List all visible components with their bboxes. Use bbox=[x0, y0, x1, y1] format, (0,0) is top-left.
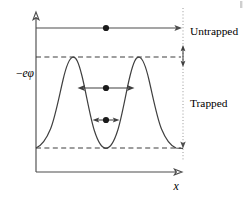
y-axis-label: −eφ bbox=[16, 67, 34, 80]
x-axis-label: x bbox=[173, 179, 178, 193]
corner-edge-mark bbox=[240, 1, 242, 8]
trapped-level-upper bbox=[78, 85, 135, 91]
untrapped-particle-dot bbox=[103, 25, 109, 31]
trapped-region-label: Trapped bbox=[190, 97, 228, 109]
x-axis-label-wrap: x bbox=[166, 176, 186, 194]
y-axis-label-wrap: −eφ bbox=[2, 63, 34, 81]
vertical-axis-arrowhead bbox=[33, 12, 39, 20]
potential-well-figure: Untrapped Trapped −eφ x bbox=[0, 0, 246, 198]
untrapped-region-label: Untrapped bbox=[190, 25, 238, 37]
potential-energy-curve bbox=[36, 57, 183, 148]
horizontal-axis-arrowhead bbox=[174, 169, 182, 175]
trapped-region-label-wrap: Trapped bbox=[190, 93, 228, 111]
untrapped-energy-level bbox=[36, 25, 182, 31]
untrapped-band-indicator bbox=[181, 45, 186, 67]
untrapped-region-label-wrap: Untrapped bbox=[190, 21, 238, 39]
y-axis-label-potential: φ bbox=[28, 67, 34, 80]
trapped-upper-particle-dot bbox=[103, 85, 109, 91]
trapped-lower-particle-dot bbox=[103, 117, 109, 123]
axes-group bbox=[33, 12, 182, 175]
trapped-level-lower bbox=[93, 117, 120, 123]
